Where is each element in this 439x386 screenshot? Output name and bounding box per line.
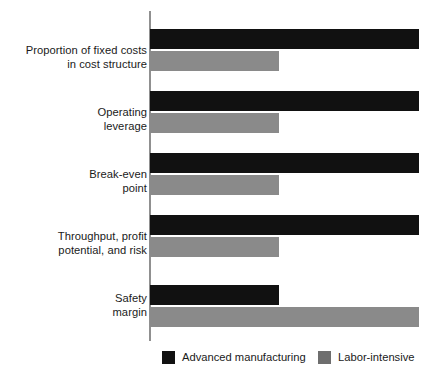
bar-advanced-manufacturing-break-even-point xyxy=(150,153,419,173)
category-label-line-2: leverage xyxy=(0,120,147,134)
category-label-line-2: margin xyxy=(0,306,147,320)
bar-fill xyxy=(150,91,419,111)
bar-fill xyxy=(150,307,419,327)
category-label-line-2: point xyxy=(0,182,147,196)
bar-fill xyxy=(150,175,279,195)
category-label-line-1: Throughput, profit xyxy=(58,230,147,242)
legend-swatch-labor-intensive xyxy=(318,351,331,364)
chart-legend: Advanced manufacturing Labor-intensive xyxy=(0,348,439,368)
bar-advanced-manufacturing-operating-leverage xyxy=(150,91,419,111)
bar-fill xyxy=(150,51,279,71)
bar-advanced-manufacturing-fixed-costs xyxy=(150,29,419,49)
legend-label-labor-intensive: Labor-intensive xyxy=(338,351,415,364)
legend-item-labor-intensive[interactable]: Labor-intensive xyxy=(318,348,415,366)
category-label-line-1: Proportion of fixed costs xyxy=(26,44,147,56)
category-label-line-2: in cost structure xyxy=(0,58,147,72)
bar-advanced-manufacturing-safety-margin xyxy=(150,285,279,305)
category-label-fixed-costs: Proportion of fixed costs in cost struct… xyxy=(0,44,147,71)
category-label-line-1: Operating xyxy=(97,106,147,118)
category-label-break-even-point: Break-even point xyxy=(0,168,147,195)
category-label-line-1: Safety xyxy=(115,292,147,304)
bar-fill xyxy=(150,215,419,235)
legend-label-advanced-manufacturing: Advanced manufacturing xyxy=(182,351,306,364)
bar-fill xyxy=(150,153,419,173)
bar-fill xyxy=(150,113,279,133)
category-label-line-2: potential, and risk xyxy=(0,244,147,258)
bar-labor-intensive-operating-leverage xyxy=(150,113,279,133)
bar-labor-intensive-break-even-point xyxy=(150,175,279,195)
category-label-safety-margin: Safety margin xyxy=(0,292,147,319)
legend-swatch-advanced-manufacturing xyxy=(162,351,175,364)
category-label-operating-leverage: Operating leverage xyxy=(0,106,147,133)
bar-labor-intensive-throughput xyxy=(150,237,279,257)
bar-advanced-manufacturing-throughput xyxy=(150,215,419,235)
category-label-throughput-profit-risk: Throughput, profit potential, and risk xyxy=(0,230,147,257)
bar-fill xyxy=(150,29,419,49)
legend-item-advanced-manufacturing[interactable]: Advanced manufacturing xyxy=(162,348,306,366)
bar-fill xyxy=(150,237,279,257)
category-label-line-1: Break-even xyxy=(89,168,147,180)
bar-chart: Proportion of fixed costs in cost struct… xyxy=(0,0,439,386)
bar-labor-intensive-safety-margin xyxy=(150,307,419,327)
bar-labor-intensive-fixed-costs xyxy=(150,51,279,71)
bar-fill xyxy=(150,285,279,305)
